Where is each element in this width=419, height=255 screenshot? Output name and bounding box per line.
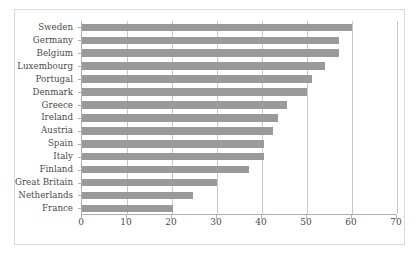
bar (82, 140, 264, 148)
bar-row (82, 73, 396, 86)
y-axis-label: Portugal (14, 73, 77, 86)
y-axis-label: Italy (14, 150, 77, 163)
gridline-70 (397, 21, 398, 214)
y-axis-label: Great Britain (14, 176, 77, 189)
x-axis-tick-10 (126, 215, 127, 219)
bar-row (82, 176, 396, 189)
y-axis-label: Netherlands (14, 189, 77, 202)
bar-series (82, 21, 396, 214)
y-axis-label: Germany (14, 34, 77, 47)
bar (82, 75, 312, 83)
bar-row (82, 124, 396, 137)
y-axis-label: Sweden (14, 21, 77, 34)
y-axis-label: Finland (14, 163, 77, 176)
bar (82, 205, 173, 213)
bar (82, 49, 339, 57)
bar-row (82, 21, 396, 34)
y-axis-label: Luxembourg (14, 60, 77, 73)
bar (82, 101, 287, 109)
bar-row (82, 163, 396, 176)
y-axis-label: Spain (14, 137, 77, 150)
bar (82, 179, 217, 187)
chart-figure: SwedenGermanyBelgiumLuxembourgPortugalDe… (0, 0, 419, 255)
bar (82, 62, 325, 70)
x-axis-tick-40 (261, 215, 262, 219)
x-axis-tick-0 (81, 215, 82, 219)
y-axis-category-labels: SwedenGermanyBelgiumLuxembourgPortugalDe… (14, 21, 77, 215)
bar (82, 37, 339, 45)
bar (82, 166, 249, 174)
bar-row (82, 189, 396, 202)
x-axis-tick-50 (306, 215, 307, 219)
bar-row (82, 60, 396, 73)
bar-row (82, 47, 396, 60)
bar-row (82, 137, 396, 150)
bar-row (82, 111, 396, 124)
bar (82, 127, 273, 135)
y-axis-label: Austria (14, 124, 77, 137)
x-axis-tick-60 (351, 215, 352, 219)
y-axis-label: France (14, 202, 77, 215)
bar-row (82, 150, 396, 163)
y-axis-label: Greece (14, 99, 77, 112)
bar (82, 192, 193, 200)
bar (82, 24, 352, 32)
bar (82, 114, 278, 122)
x-axis-tick-labels: 010203040506070 (0, 217, 419, 233)
bar (82, 88, 307, 96)
x-axis-tick-20 (171, 215, 172, 219)
x-axis-tick-30 (216, 215, 217, 219)
bar-row (82, 99, 396, 112)
bar (82, 153, 264, 161)
plot-area (81, 21, 396, 215)
y-axis-label: Denmark (14, 86, 77, 99)
bar-row (82, 86, 396, 99)
bar-row (82, 34, 396, 47)
bar-row (82, 202, 396, 215)
y-axis-label: Belgium (14, 47, 77, 60)
x-axis-tick-70 (396, 215, 397, 219)
y-axis-label: Ireland (14, 111, 77, 124)
